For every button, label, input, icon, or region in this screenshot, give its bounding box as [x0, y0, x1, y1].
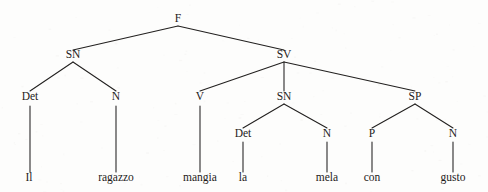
tree-node-sp: SP [409, 90, 422, 102]
tree-edge-sp-to-p [372, 104, 415, 128]
tree-leaf-w_gus: gusto [441, 171, 466, 184]
syntax-tree-canvas: FSNSVDetNVSNSPDetNPNIlragazzomangialamel… [0, 0, 488, 192]
tree-edge-sp-to-n3 [415, 104, 453, 128]
tree-edge-sn2-to-n2 [284, 104, 327, 128]
tree-edge-f-to-sv [178, 26, 284, 50]
tree-node-det2: Det [235, 127, 252, 139]
tree-edge-sv-to-sp [284, 62, 415, 91]
tree-leaf-w_con: con [364, 171, 381, 183]
tree-node-p: P [369, 127, 375, 139]
tree-node-sv: SV [277, 48, 292, 60]
tree-edge-layer [30, 26, 453, 172]
tree-node-f: F [175, 12, 181, 24]
tree-leaf-w_rag: ragazzo [98, 171, 134, 184]
tree-edge-sv-to-v [200, 62, 284, 91]
tree-node-layer: FSNSVDetNVSNSPDetNPNIlragazzomangialamel… [22, 12, 466, 184]
tree-edge-sn1-to-det1 [30, 62, 73, 91]
tree-leaf-w_mel: mela [316, 171, 338, 183]
tree-node-sn1: SN [66, 48, 81, 60]
tree-node-det1: Det [22, 90, 39, 102]
tree-node-n1: N [112, 90, 121, 102]
tree-edge-sn1-to-n1 [73, 62, 116, 91]
tree-node-n2: N [323, 127, 332, 139]
tree-leaf-w_il: Il [25, 171, 32, 183]
tree-node-sn2: SN [277, 90, 292, 102]
tree-node-v: V [196, 90, 205, 102]
tree-leaf-w_man: mangia [183, 171, 217, 184]
tree-node-n3: N [449, 127, 458, 139]
tree-edge-f-to-sn1 [73, 26, 178, 50]
tree-edge-sn2-to-det2 [243, 104, 284, 128]
syntax-tree-figure: FSNSVDetNVSNSPDetNPNIlragazzomangialamel… [0, 0, 488, 192]
tree-leaf-w_la: la [239, 171, 247, 183]
